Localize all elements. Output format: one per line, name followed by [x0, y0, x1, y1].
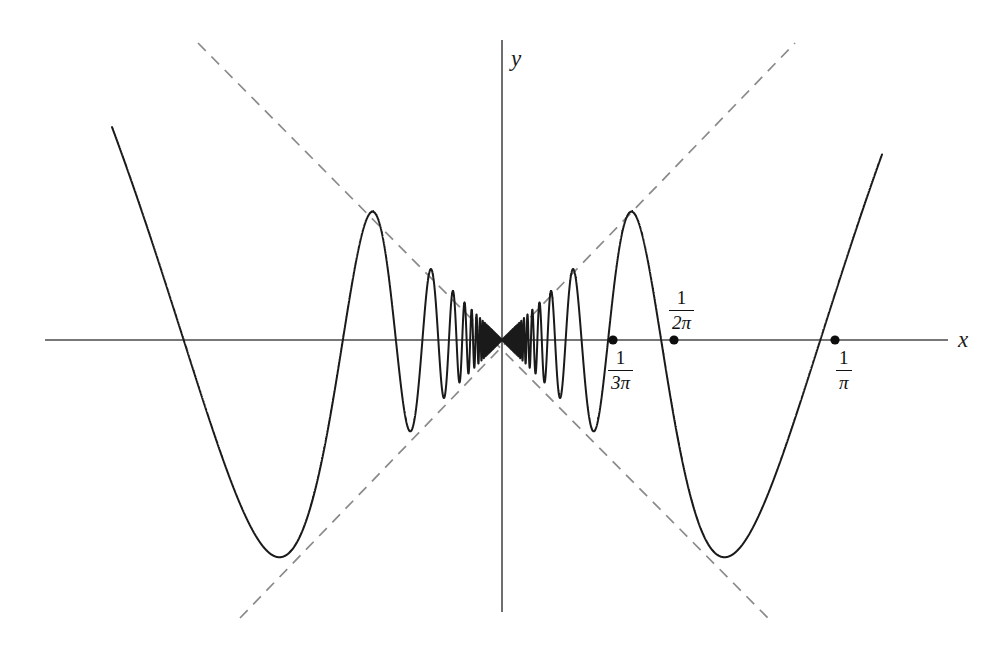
root-dot — [669, 335, 678, 344]
fraction-bar — [669, 310, 694, 311]
root-label-denominator: π — [836, 372, 852, 393]
fraction-bar — [836, 370, 852, 371]
fraction-bar — [608, 370, 633, 371]
y-axis-label: y — [509, 46, 522, 71]
root-label-denominator: 3π — [608, 372, 633, 393]
function-plot: x y — [0, 0, 1008, 652]
envelope-lines — [198, 43, 795, 618]
root-label-1-over-pi: 1 π — [836, 348, 852, 393]
root-dot — [608, 335, 617, 344]
root-label-1-over-3pi: 1 3π — [608, 348, 633, 393]
function-curve — [112, 127, 882, 557]
figure-root: x y 1 3π 1 2π 1 π — [0, 0, 1008, 652]
root-label-denominator: 2π — [669, 312, 694, 333]
root-label-1-over-2pi: 1 2π — [669, 288, 694, 333]
root-label-numerator: 1 — [608, 348, 633, 369]
root-label-numerator: 1 — [669, 288, 694, 309]
axes — [45, 40, 948, 612]
root-dot — [830, 335, 839, 344]
root-label-numerator: 1 — [836, 348, 852, 369]
x-axis-label: x — [957, 327, 969, 352]
